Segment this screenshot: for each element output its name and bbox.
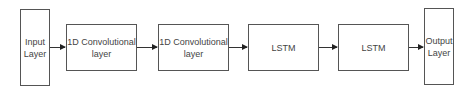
node-label: 1D Convolutional (67, 36, 136, 48)
node-label: LSTM (271, 42, 295, 54)
arrow-lstm2-to-output (409, 47, 423, 48)
node-conv1d-layer-1: 1D Convolutionallayer (66, 24, 137, 71)
node-label: LSTM (361, 42, 385, 54)
node-lstm-2: LSTM (338, 24, 409, 71)
node-lstm-1: LSTM (248, 24, 319, 71)
node-label: Layer (24, 48, 47, 60)
arrow-conv1-to-conv2 (137, 47, 157, 48)
node-conv1d-layer-2: 1D Convolutionallayer (158, 24, 229, 71)
node-label: 1D Convolutional (159, 36, 228, 48)
node-label: Output (425, 35, 452, 47)
node-label: Layer (425, 47, 452, 59)
node-output-layer: OutputLayer (424, 8, 454, 85)
node-label: Input (24, 36, 47, 48)
node-input-layer: InputLayer (20, 9, 50, 86)
arrow-conv2-to-lstm1 (229, 47, 247, 48)
node-label: layer (67, 48, 136, 60)
arrow-lstm1-to-lstm2 (319, 47, 337, 48)
node-label: layer (159, 48, 228, 60)
arrow-input-to-conv1 (50, 47, 65, 48)
